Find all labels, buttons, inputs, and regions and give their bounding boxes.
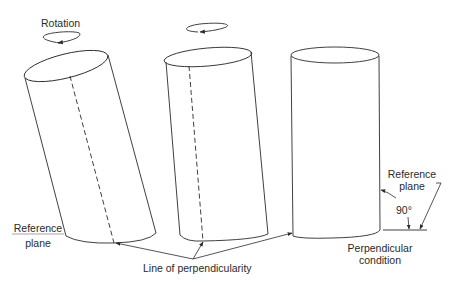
slightly-tilted-cylinder xyxy=(163,44,268,241)
perpendicularity-diagram xyxy=(0,0,454,283)
tilted-cylinder xyxy=(21,44,156,243)
rotation-arrow-icon-2 xyxy=(186,23,227,32)
reference-plane-left-line2: plane xyxy=(12,237,64,249)
rotation-label: Rotation xyxy=(41,17,80,29)
line-of-perpendicularity-label: Line of perpendicularity xyxy=(143,262,252,274)
reference-plane-left-line1: Reference xyxy=(12,222,64,234)
reference-plane-left-label: Reference plane xyxy=(12,222,64,249)
reference-plane-right-line1: Reference xyxy=(385,168,439,180)
reference-plane-right-label: Reference plane xyxy=(385,168,439,192)
angle-label: 90° xyxy=(396,204,412,216)
reference-plane-right-line2: plane xyxy=(385,180,439,192)
perpendicular-condition-label: Perpendicular condition xyxy=(340,242,420,266)
perpendicular-condition-line2: condition xyxy=(340,254,420,266)
rotation-arrow-icon-1 xyxy=(43,32,80,43)
upright-cylinder xyxy=(291,47,380,238)
line-of-perpendicularity-leaders xyxy=(116,233,292,259)
perpendicular-condition-line1: Perpendicular xyxy=(340,242,420,254)
